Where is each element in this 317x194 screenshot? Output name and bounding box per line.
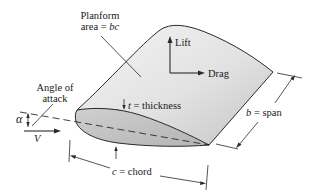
velocity-arrowhead-icon <box>54 129 61 134</box>
wing-diagram: Planform area = bc Lift Drag Angle of at… <box>0 0 317 194</box>
planform-line1: Planform <box>75 10 125 21</box>
span-ext-bottom <box>216 144 238 149</box>
alpha-label: α <box>16 114 22 125</box>
angle-line2: attack <box>32 93 78 104</box>
alpha-arrow-up-icon <box>26 113 29 118</box>
planform-var: bc <box>109 21 119 32</box>
chord-ext-right <box>206 165 208 190</box>
span-dim-top <box>275 77 293 103</box>
chord-arrow-right-icon <box>200 181 206 185</box>
alpha-arrow-down-icon <box>26 122 29 127</box>
planform-label: Planform area = bc <box>75 10 125 32</box>
chord-arrow-left-icon <box>70 155 76 159</box>
chord-label: c = chord <box>112 166 152 177</box>
chord-ext-left <box>69 140 70 162</box>
span-label: b = span <box>246 107 282 118</box>
drag-label: Drag <box>208 68 229 79</box>
planform-line2: area = bc <box>75 21 125 32</box>
span-ext-top <box>277 73 302 78</box>
thickness-label: t = thickness <box>128 100 181 111</box>
angle-of-attack-label: Angle of attack <box>32 82 78 104</box>
angle-line1: Angle of <box>32 82 78 93</box>
span-dim-bottom <box>238 122 258 146</box>
lift-label: Lift <box>175 37 191 48</box>
chord-dim-left <box>72 156 110 168</box>
velocity-label: V <box>34 133 40 144</box>
chord-dim-right <box>160 176 203 183</box>
thickness-bottom-arrowhead-icon <box>114 146 117 151</box>
